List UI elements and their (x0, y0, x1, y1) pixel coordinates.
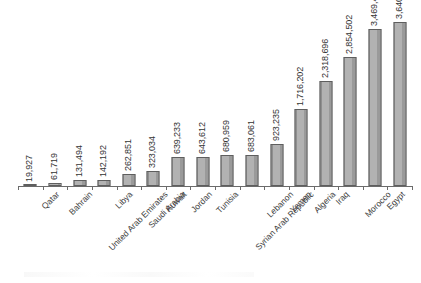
axis-tick (190, 186, 191, 190)
bar (295, 109, 308, 186)
axis-tick (363, 186, 364, 190)
axis-tick (18, 186, 19, 190)
bar-group: 3,469,449 (363, 10, 388, 186)
category-label: Kuwait (165, 190, 189, 214)
axis-tick (289, 186, 290, 190)
bar-group: 1,716,202 (289, 10, 314, 186)
axis-tick (387, 186, 388, 190)
bar-value-label: 131,494 (74, 145, 83, 177)
axis-tick (43, 186, 44, 190)
bar-value-label: 680,959 (222, 120, 231, 152)
bar-value-label: 639,233 (173, 122, 182, 154)
bar-group: 639,233 (166, 10, 191, 186)
category-label: Qatar (40, 190, 61, 211)
category-label: Algeria (313, 190, 338, 215)
axis-tick (240, 186, 241, 190)
bar-group: 131,494 (67, 10, 92, 186)
bar-value-label: 683,061 (246, 120, 255, 152)
bar-group: 2,854,502 (338, 10, 363, 186)
category-label: Libya (114, 190, 135, 211)
bar-value-label: 923,235 (271, 110, 280, 142)
bar-value-label: 323,034 (148, 137, 157, 169)
bar (147, 171, 160, 186)
bar-group: 61,719 (43, 10, 68, 186)
axis-tick (92, 186, 93, 190)
bar-group: 323,034 (141, 10, 166, 186)
axis-tick (166, 186, 167, 190)
bar (245, 155, 258, 186)
bar (221, 155, 234, 186)
bar-value-label: 3,640,155 (394, 0, 403, 19)
category-label: Jordan (190, 190, 215, 215)
category-axis-labels: QatarBahrainUnited Arab EmiratesLibyaSau… (18, 190, 412, 282)
bar (369, 29, 382, 186)
bar-group: 3,640,155 (387, 10, 412, 186)
axis-tick (67, 186, 68, 190)
axis-tick (215, 186, 216, 190)
bar-value-label: 643,612 (197, 122, 206, 154)
bar (122, 174, 135, 186)
plot-area: 19,92761,719131,494142,192262,851323,034… (18, 10, 412, 186)
axis-tick (338, 186, 339, 190)
axis-tick (314, 186, 315, 190)
bar-value-label: 2,318,696 (320, 39, 329, 78)
category-label: Iraq (334, 190, 351, 207)
bar-group: 923,235 (264, 10, 289, 186)
bar-value-label: 142,192 (99, 145, 108, 177)
bar (270, 144, 283, 186)
bar (344, 57, 357, 186)
bar (393, 22, 406, 186)
bar-group: 2,318,696 (314, 10, 339, 186)
bar-group: 19,927 (18, 10, 43, 186)
bar-group: 142,192 (92, 10, 117, 186)
axis-tick (117, 186, 118, 190)
category-label: Tunisia (215, 190, 240, 215)
bar-group: 643,612 (190, 10, 215, 186)
axis-tick (264, 186, 265, 190)
bar-group: 680,959 (215, 10, 240, 186)
bar-group: 683,061 (240, 10, 265, 186)
bar-value-label: 262,851 (123, 139, 132, 171)
category-label: Bahrain (67, 190, 94, 217)
bar-value-label: 2,854,502 (345, 15, 354, 54)
page-artifact (24, 272, 254, 277)
bar-value-label: 3,469,449 (370, 0, 379, 26)
bar-value-label: 19,927 (25, 155, 34, 182)
bar (172, 157, 185, 186)
bar (196, 157, 209, 186)
bar-group: 262,851 (117, 10, 142, 186)
axis-tick (412, 186, 413, 190)
bar-value-label: 1,716,202 (296, 66, 305, 105)
axis-tick (141, 186, 142, 190)
bar-chart: 19,92761,719131,494142,192262,851323,034… (0, 0, 421, 283)
bar (319, 81, 332, 186)
bar-value-label: 61,719 (49, 153, 58, 180)
